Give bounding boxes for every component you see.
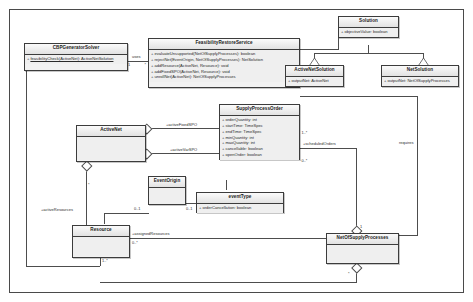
edge-nosp-bottom-h (100, 282, 357, 283)
feature-signature: evaluateUnsupported(NetOfSupplyProcesses… (154, 51, 255, 56)
class-feature: +openOrder: boolean (222, 152, 298, 158)
mult-resource-top: * (88, 183, 90, 187)
edge-spo-scheduled-v (356, 148, 357, 230)
edge-cbp-left-spine (26, 61, 27, 266)
edge-eventorigin-right-h (186, 203, 196, 204)
class-feature: +orderCancellation: boolean (199, 205, 282, 211)
feature-signature: openOrder: boolean (225, 152, 261, 157)
class-attributes-active-net-solution: +outputNet: ActiveNet (286, 77, 343, 86)
class-name-cbp-generator-solver: CBPGeneratorSolver (25, 44, 127, 55)
class-name-resource: Resource (73, 226, 129, 237)
class-attributes-event-type: +orderCancellation: boolean (197, 204, 283, 213)
class-attributes-solution: +objectiveValue: boolean (339, 28, 398, 37)
mult-spo-right-lower: 0..* (302, 159, 308, 163)
feature-signature: rejectNet(EventOrigin, NetOfSupplyProces… (154, 57, 263, 62)
edge-requires-bottom-h (399, 235, 418, 236)
edge-cbp-left-spine-bottom (26, 266, 100, 267)
feature-signature: orderQuantity: int (225, 117, 256, 122)
class-box-event-origin[interactable]: EventOrigin (148, 176, 186, 205)
class-box-active-net[interactable]: ActiveNet (76, 125, 146, 162)
class-box-supply-process-order[interactable]: SupplyProcessOrder +orderQuantity: int +… (219, 104, 300, 160)
class-name-solution: Solution (339, 17, 398, 28)
edge-resource-bottom-v (100, 258, 101, 266)
class-name-event-type: eventType (197, 193, 283, 204)
class-name-event-origin: EventOrigin (149, 177, 185, 188)
class-box-cbp-generator-solver[interactable]: CBPGeneratorSolver +feasibilityCheck(Act… (24, 43, 128, 71)
edge-eventorigin-left-h (104, 213, 149, 214)
class-name-active-net: ActiveNet (77, 126, 145, 137)
class-attributes-active-net (77, 137, 145, 160)
mult-event-origin-right: 0..1 (186, 207, 193, 211)
class-box-active-net-solution[interactable]: ActiveNetSolution +outputNet: ActiveNet (285, 65, 344, 87)
edge-label-uses: uses (132, 55, 140, 59)
feature-signature: unrollNet(ActiveNet): NetOfSupplyProcess… (154, 74, 235, 79)
class-feature: +feasibilityCheck(ActiveNet): ActiveNetS… (27, 56, 126, 62)
feature-signature: outputNet: ActiveNet (291, 78, 328, 83)
class-box-resource[interactable]: Resource (72, 225, 130, 258)
mult-nosp-bottom: * (348, 272, 350, 276)
edge-label-active-resources: +activeResources (41, 208, 73, 212)
mult-cbp-to-frs-tgt: * (145, 63, 147, 67)
edge-requires-top-h (300, 96, 418, 97)
edge-eventorigin-up-v (226, 180, 227, 190)
feature-signature: minQuantity: int (225, 135, 253, 140)
mult-nosp-top: 1 (360, 225, 362, 229)
class-operations-feasibility-restore-service: +evaluateUnsupported(NetOfSupplyProcesse… (149, 50, 299, 82)
edge-activenet-fixedspo (146, 128, 219, 129)
edge-label-active-fixed-spo: +activeFixedSPO (166, 123, 197, 127)
edge-activenet-varspo-h (146, 153, 219, 154)
uml-class-diagram: uses 1 * +activeFixedSPO +activeVarSPO +… (0, 0, 473, 302)
edge-eventorigin-left-v (104, 213, 105, 224)
class-name-feasibility-restore-service: FeasibilityRestoreService (149, 39, 299, 50)
class-feature: +outputNet: NetOfSupplyProcesses (384, 78, 457, 84)
feature-signature: orderCancellation: boolean (202, 205, 251, 210)
feature-signature: maxQuantity: int (225, 140, 255, 145)
edge-label-active-var-spo: +activeVarSPO (170, 148, 197, 152)
feature-signature: objectiveValue: boolean (344, 29, 387, 34)
feature-signature: cancellable: boolean (225, 146, 262, 151)
class-box-net-of-supply-processes[interactable]: NetOfSupplyProcesses (326, 233, 399, 264)
mult-resource-right: 0..* (132, 241, 138, 245)
mult-event-origin-left: 0..1 (134, 207, 141, 211)
edge-solution-gen-bar (314, 53, 423, 54)
class-box-solution[interactable]: Solution +objectiveValue: boolean (338, 16, 399, 38)
class-feature: +outputNet: ActiveNet (288, 78, 342, 84)
mult-spo-right-upper: 1..* (302, 131, 308, 135)
class-box-event-type[interactable]: eventType +orderCancellation: boolean (196, 192, 284, 213)
edge-solution-gen-stem (368, 45, 369, 53)
feature-signature: feasibilityCheck(ActiveNet): ActiveNetSo… (30, 56, 113, 61)
edge-label-requires: requires (399, 141, 413, 145)
class-name-net-of-supply-processes: NetOfSupplyProcesses (327, 234, 398, 245)
edge-label-scheduled-orders: +scheduledOrders (303, 142, 336, 146)
feature-signature: addResource(ActiveNet, Resource): void (154, 63, 228, 68)
mult-resource-bottom: 1..* (102, 259, 108, 263)
class-feature: +unrollNet(ActiveNet): NetOfSupplyProces… (151, 74, 298, 80)
edge-spo-scheduled-h (300, 148, 356, 149)
class-attributes-supply-process-order: +orderQuantity: int +startTime: TimeSpec… (220, 116, 299, 160)
class-attributes-resource (73, 237, 129, 256)
edge-resource-assigned-h (130, 238, 326, 239)
class-feature: +objectiveValue: boolean (341, 29, 397, 35)
class-attributes-cbp-generator-solver: +feasibilityCheck(ActiveNet): ActiveNetS… (25, 55, 127, 64)
feature-signature: endTime: TimeSpec (225, 129, 261, 134)
feature-signature: outputNet: NetOfSupplyProcesses (387, 78, 449, 83)
class-name-supply-process-order: SupplyProcessOrder (220, 105, 299, 116)
class-box-net-solution[interactable]: NetSolution +outputNet: NetOfSupplyProce… (381, 65, 459, 87)
mult-cbp-to-frs-src: 1 (128, 63, 130, 67)
class-attributes-net-solution: +outputNet: NetOfSupplyProcesses (382, 77, 458, 86)
edge-frs-to-solution-h (300, 49, 339, 50)
class-attributes-event-origin (149, 188, 185, 204)
edge-label-assigned-resources: +assignedResources (132, 232, 169, 236)
edge-requires-v (417, 96, 418, 235)
feature-signature: startTime: TimeSpec (225, 123, 262, 128)
class-name-active-net-solution: ActiveNetSolution (286, 66, 343, 77)
class-attributes-net-of-supply-processes (327, 245, 398, 262)
class-box-feasibility-restore-service[interactable]: FeasibilityRestoreService +evaluateUnsup… (148, 38, 300, 88)
class-name-net-solution: NetSolution (382, 66, 458, 77)
edge-activenet-to-resource (86, 168, 87, 225)
feature-signature: addFixedSPO(ActiveNet, Resource): void (154, 69, 229, 74)
